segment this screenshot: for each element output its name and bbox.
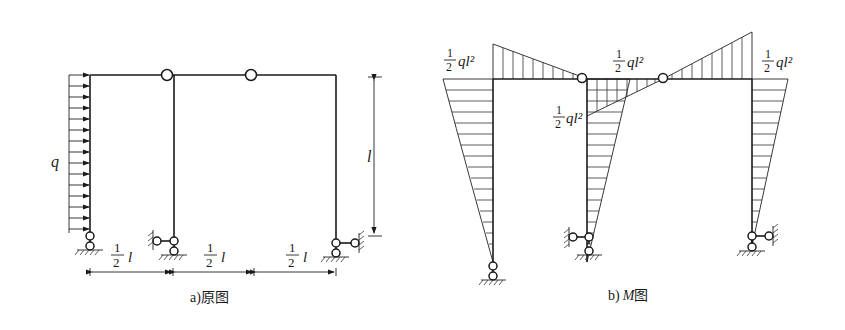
- span-dimensions: 1 2 l 1 2 l 1 2 l: [90, 240, 336, 276]
- svg-text:1: 1: [289, 240, 296, 255]
- load-label: q: [51, 153, 59, 171]
- left-column-moment: [443, 79, 493, 262]
- svg-text:1: 1: [616, 47, 622, 61]
- svg-text:ql²: ql²: [566, 110, 583, 126]
- moment-label-middle-beam: 1 2 ql²: [613, 47, 644, 75]
- svg-text:l: l: [221, 249, 225, 265]
- caption-b: b)M图: [608, 288, 648, 304]
- svg-text:1: 1: [447, 46, 453, 60]
- svg-text:ql²: ql²: [458, 53, 475, 69]
- structural-diagrams: q: [0, 0, 845, 330]
- moment-diagram: 1 2 ql² 1 2 ql² 1 2 ql² 1 2 ql² b)M图: [443, 32, 793, 304]
- original-frame-diagram: q: [51, 70, 382, 307]
- support-b-left: [479, 262, 506, 285]
- svg-text:1: 1: [556, 103, 562, 117]
- svg-text:2: 2: [555, 117, 561, 131]
- hinge-left: [162, 70, 173, 81]
- svg-text:ql²: ql²: [776, 54, 793, 70]
- support-right: [321, 231, 364, 262]
- svg-text:l: l: [303, 249, 307, 265]
- svg-text:ql²: ql²: [627, 54, 644, 70]
- svg-text:1: 1: [114, 240, 121, 255]
- support-left: [75, 232, 103, 255]
- svg-text:l: l: [128, 249, 132, 265]
- middle-column-moment: [587, 79, 630, 262]
- svg-text:2: 2: [446, 60, 452, 74]
- svg-text:2: 2: [764, 61, 770, 75]
- right-column-moment: [752, 79, 788, 246]
- middle-beam-moment: [587, 79, 663, 116]
- moment-label-middle-column: 1 2 ql²: [553, 103, 583, 131]
- left-beam-moment: [493, 44, 582, 79]
- frame-members: [90, 75, 336, 239]
- hinge-b-left: [578, 74, 587, 83]
- height-dimension: l: [367, 77, 382, 236]
- svg-text:2: 2: [206, 255, 213, 270]
- caption-a: a)原图: [190, 290, 229, 306]
- distributed-load-q: q: [51, 75, 89, 233]
- moment-frame-members: [493, 79, 752, 262]
- hinge-right: [246, 70, 257, 81]
- svg-text:2: 2: [113, 255, 120, 270]
- moment-label-right-column: 1 2 ql²: [762, 47, 793, 75]
- span-label-3: 1 2 l: [286, 240, 307, 270]
- span-label-1: 1 2 l: [111, 240, 132, 270]
- support-b-right: [737, 224, 778, 256]
- hinge-b-right: [659, 74, 668, 83]
- support-middle: [148, 230, 187, 260]
- right-beam-moment: [663, 32, 752, 79]
- svg-text:1: 1: [765, 47, 771, 61]
- svg-text:2: 2: [615, 61, 621, 75]
- moment-label-left-column: 1 2 ql²: [444, 46, 475, 74]
- support-b-middle: [564, 227, 602, 260]
- svg-text:1: 1: [207, 240, 214, 255]
- svg-text:b)M图: b)M图: [608, 288, 648, 304]
- height-label: l: [367, 148, 372, 165]
- span-label-2: 1 2 l: [204, 240, 225, 270]
- svg-text:2: 2: [288, 255, 295, 270]
